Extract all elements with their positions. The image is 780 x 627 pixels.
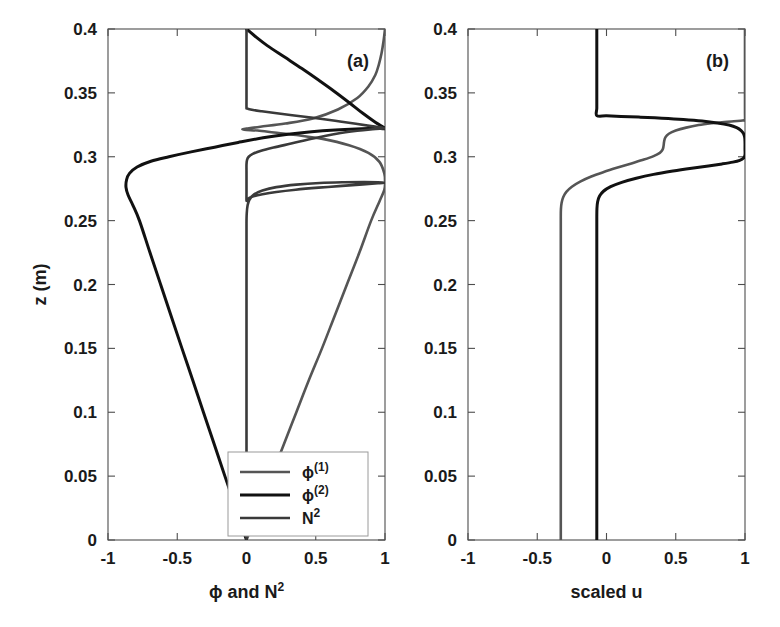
y-tick-label: 0.3: [73, 148, 97, 167]
x-axis-title: ϕ and N2​: [209, 580, 285, 602]
x-tick-label: 1: [740, 549, 749, 568]
y-tick-label: 0.25: [64, 212, 97, 231]
y-tick-label: 0.25: [424, 212, 457, 231]
y-tick-label: 0.35: [64, 84, 97, 103]
y-axis-title: z (m): [30, 264, 50, 306]
x-tick-label: -1: [460, 549, 475, 568]
y-tick-label: 0.4: [73, 20, 97, 39]
x-axis-title: scaled u: [570, 582, 642, 602]
curve-scaled-u-mode-2: [596, 29, 745, 540]
x-tick-label: -0.5: [163, 549, 192, 568]
x-tick-label: 1: [380, 549, 389, 568]
curves-group: [561, 29, 745, 540]
y-tick-label: 0.05: [64, 467, 97, 486]
figure-root: -1-0.500.5100.050.10.150.20.250.30.350.4…: [0, 0, 780, 627]
axes-frame-panel-b: [468, 29, 745, 540]
panel-label-panel-b: (b): [706, 51, 729, 71]
y-tick-label: 0: [448, 531, 457, 550]
y-tick-label: 0.2: [433, 276, 457, 295]
y-tick-label: 0.1: [73, 403, 97, 422]
chart-canvas: -1-0.500.5100.050.10.150.20.250.30.350.4…: [0, 0, 780, 627]
y-tick-label: 0.1: [433, 403, 457, 422]
x-tick-label: 0.5: [664, 549, 688, 568]
y-tick-label: 0.15: [64, 339, 97, 358]
x-tick-label: 0: [242, 549, 251, 568]
curve-scaled-u-mode-1: [561, 29, 745, 540]
y-tick-label: 0.2: [73, 276, 97, 295]
y-tick-label: 0.35: [424, 84, 457, 103]
legend: ϕ(1)​ϕ(2)​N2​: [228, 452, 368, 536]
panel-panel-b: -1-0.500.5100.050.10.150.20.250.30.350.4…: [424, 20, 750, 602]
x-tick-label: 0: [602, 549, 611, 568]
x-tick-label: -0.5: [523, 549, 552, 568]
y-tick-label: 0.15: [424, 339, 457, 358]
y-tick-label: 0.05: [424, 467, 457, 486]
y-tick-label: 0.4: [433, 20, 457, 39]
y-tick-label: 0.3: [433, 148, 457, 167]
x-tick-label: 0.5: [304, 549, 328, 568]
panel-label-panel-a: (a): [347, 51, 369, 71]
x-tick-label: -1: [100, 549, 115, 568]
panel-panel-a: -1-0.500.5100.050.10.150.20.250.30.350.4…: [30, 20, 390, 602]
y-tick-label: 0: [88, 531, 97, 550]
